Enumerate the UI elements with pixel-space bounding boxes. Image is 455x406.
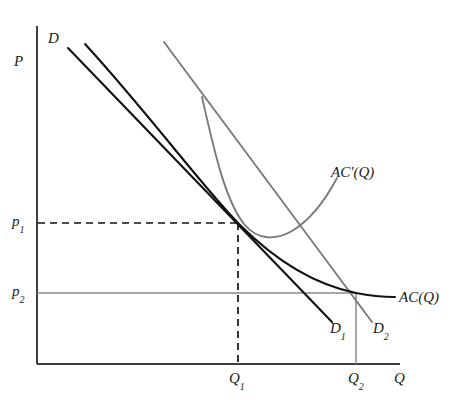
demand-curve-label-d2: D2 (373, 321, 389, 339)
average-cost-curve-ac-prime (202, 97, 337, 237)
p2-base: p (12, 283, 20, 299)
d1-base: D (330, 320, 341, 336)
q2-base: Q (348, 370, 359, 386)
demand-line-d2 (164, 42, 372, 322)
demand-curve-label-d: D (48, 31, 59, 46)
average-cost-prime-label: AC′(Q) (331, 165, 374, 180)
p1-subscript: 1 (20, 224, 25, 235)
tick-label-p1: p1 (12, 214, 25, 232)
d1-subscript: 1 (341, 331, 346, 342)
q1-subscript: 1 (240, 381, 245, 392)
d2-base: D (373, 320, 384, 336)
q1-base: Q (229, 370, 240, 386)
q2-subscript: 2 (359, 381, 364, 392)
p2-subscript: 2 (20, 294, 25, 305)
demand-curve-label-d1: D1 (330, 321, 346, 339)
average-cost-label: AC(Q) (399, 290, 439, 305)
d2-subscript: 2 (384, 331, 389, 342)
economics-diagram: P Q D AC′(Q) AC(Q) D1 D2 p1 p2 Q1 Q2 (0, 0, 455, 406)
p1-base: p (12, 213, 20, 229)
quantity-axis-label: Q (394, 371, 405, 386)
price-axis-label: P (14, 54, 23, 69)
diagram-canvas (0, 0, 455, 406)
tick-label-q2: Q2 (348, 371, 364, 389)
tick-label-q1: Q1 (229, 371, 245, 389)
tick-label-p2: p2 (12, 284, 25, 302)
